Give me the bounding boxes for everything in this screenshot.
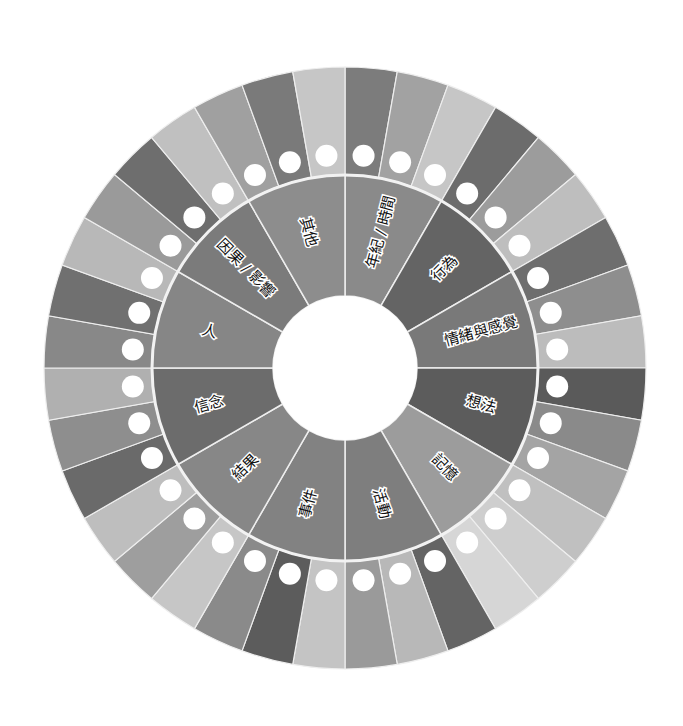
dot-marker <box>546 376 568 398</box>
dot-marker <box>279 151 301 173</box>
dot-marker <box>527 267 549 289</box>
dot-marker <box>456 183 478 205</box>
dot-marker <box>353 569 375 591</box>
dot-marker <box>508 235 530 257</box>
dot-marker <box>527 447 549 469</box>
center-hole <box>273 296 417 440</box>
dot-marker <box>540 302 562 324</box>
dot-marker <box>183 508 205 530</box>
dot-marker <box>141 447 163 469</box>
dot-marker <box>540 412 562 434</box>
dot-marker <box>389 563 411 585</box>
dot-marker <box>456 531 478 553</box>
dot-marker <box>485 206 507 228</box>
dot-marker <box>546 338 568 360</box>
dot-marker <box>508 479 530 501</box>
dot-marker <box>315 145 337 167</box>
dot-marker <box>160 235 182 257</box>
dot-marker <box>485 508 507 530</box>
dot-marker <box>122 338 144 360</box>
dot-marker <box>244 550 266 572</box>
dot-marker <box>122 376 144 398</box>
dot-marker <box>279 563 301 585</box>
dot-marker <box>315 569 337 591</box>
dot-marker <box>244 164 266 186</box>
dot-marker <box>128 302 150 324</box>
dot-marker <box>212 531 234 553</box>
dot-marker <box>424 550 446 572</box>
dot-marker <box>212 183 234 205</box>
dot-marker <box>424 164 446 186</box>
dot-marker <box>128 412 150 434</box>
dot-marker <box>389 151 411 173</box>
dot-marker <box>183 206 205 228</box>
thought-wheel-diagram: 年紀 / 時間行為情緒與感覺想法記憶活動事件結果信念人因果 / 影響其他 <box>0 0 683 726</box>
dot-marker <box>141 267 163 289</box>
dot-marker <box>353 145 375 167</box>
dot-marker <box>160 479 182 501</box>
